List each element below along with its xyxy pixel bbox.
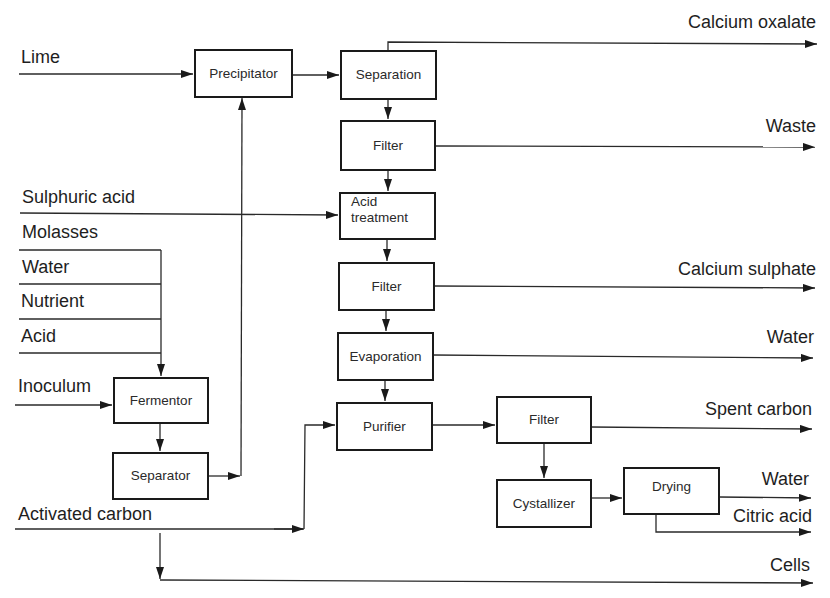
output-citric-acid: Citric acid [733, 506, 812, 527]
evaporation-box: Evaporation [337, 332, 434, 381]
output-calcium-sulphate: Calcium sulphate [678, 259, 816, 280]
acid-treatment-label-2: treatment [351, 210, 408, 226]
acid-treatment-label-1: Acid [351, 194, 377, 210]
precipitator-label: Precipitator [209, 66, 277, 82]
output-spent-carbon: Spent carbon [705, 399, 812, 420]
precipitator-box: Precipitator [194, 49, 293, 98]
arrow-cells [160, 580, 813, 583]
arrow-calcium-oxalate [388, 42, 817, 50]
filter-2-label: Filter [372, 279, 402, 295]
arrow-water-evap [433, 355, 813, 358]
input-water: Water [22, 257, 69, 278]
purifier-box: Purifier [336, 402, 433, 451]
input-activated-carbon: Activated carbon [18, 504, 152, 525]
filter-1-label: Filter [373, 138, 403, 154]
purifier-label: Purifier [363, 419, 406, 435]
separator-box: Separator [112, 452, 209, 500]
arrow-water-drying [719, 497, 811, 498]
input-molasses: Molasses [22, 222, 98, 243]
output-calcium-oxalate: Calcium oxalate [688, 12, 816, 33]
output-water-evaporation: Water [767, 327, 814, 348]
arrow-waste [436, 146, 815, 147]
input-sulphuric-acid: Sulphuric acid [22, 187, 135, 208]
arrow-calcium-sulphate [434, 286, 815, 288]
output-waste: Waste [766, 116, 816, 137]
crystallizer-box: Cystallizer [496, 479, 592, 528]
acid-treatment-box: Acid treatment [339, 192, 436, 240]
arrow-sulphuric-acid [20, 213, 338, 215]
input-lime: Lime [21, 47, 60, 68]
input-inoculum: Inoculum [18, 376, 91, 397]
input-nutrient: Nutrient [21, 291, 84, 312]
drying-box: Drying [623, 467, 720, 515]
filter-3-box: Filter [496, 396, 592, 444]
output-cells: Cells [770, 555, 810, 576]
output-water-drying: Water [762, 469, 809, 490]
evaporation-label: Evaporation [349, 349, 421, 365]
drying-label: Drying [652, 479, 691, 495]
separator-label: Separator [131, 468, 190, 484]
filter-1-box: Filter [340, 120, 436, 171]
crystallizer-label: Cystallizer [513, 496, 575, 512]
separation-box: Separation [340, 50, 437, 100]
arrow-spent-carbon [591, 427, 812, 429]
filter-2-box: Filter [338, 262, 435, 311]
input-acid: Acid [21, 326, 56, 347]
fermentor-label: Fermentor [130, 393, 192, 409]
separation-label: Separation [356, 67, 421, 83]
fermentor-box: Fermentor [113, 377, 209, 424]
filter-3-label: Filter [529, 412, 559, 428]
